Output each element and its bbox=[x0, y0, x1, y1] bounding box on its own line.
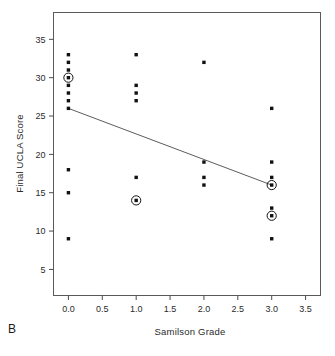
data-point bbox=[67, 84, 70, 87]
data-point bbox=[134, 53, 137, 56]
y-tick-label: 35 bbox=[35, 35, 45, 45]
data-point bbox=[134, 84, 137, 87]
data-point bbox=[270, 183, 273, 186]
data-point bbox=[202, 160, 205, 163]
data-point bbox=[67, 53, 70, 56]
figure-panel-b: 0.00.51.01.52.02.53.03.55101520253035 Fi… bbox=[0, 0, 335, 356]
scatter-plot: 0.00.51.01.52.02.53.03.55101520253035 bbox=[0, 0, 335, 356]
data-point bbox=[67, 168, 70, 171]
x-tick-label: 0.5 bbox=[96, 304, 109, 314]
y-axis-title: Final UCLA Score bbox=[14, 99, 25, 209]
data-point bbox=[67, 237, 70, 240]
axis-ticks bbox=[49, 39, 306, 300]
data-point bbox=[270, 237, 273, 240]
y-tick-label: 20 bbox=[35, 150, 45, 160]
x-tick-label: 3.5 bbox=[299, 304, 312, 314]
x-tick-label: 2.0 bbox=[198, 304, 211, 314]
data-point bbox=[270, 160, 273, 163]
y-tick-label: 5 bbox=[40, 265, 45, 275]
data-point bbox=[67, 99, 70, 102]
x-tick-label: 3.0 bbox=[265, 304, 278, 314]
data-point bbox=[134, 199, 137, 202]
regression-line bbox=[68, 108, 271, 185]
panel-letter-label: B bbox=[8, 322, 16, 336]
axis-tick-labels: 0.00.51.01.52.02.53.03.55101520253035 bbox=[35, 35, 311, 314]
data-point bbox=[202, 61, 205, 64]
plot-frame bbox=[54, 13, 321, 296]
data-point bbox=[270, 107, 273, 110]
data-point bbox=[67, 76, 70, 79]
data-point bbox=[67, 91, 70, 94]
y-tick-label: 25 bbox=[35, 111, 45, 121]
x-tick-label: 0.0 bbox=[62, 304, 75, 314]
x-axis-title: Samilson Grade bbox=[110, 326, 270, 337]
x-tick-label: 1.5 bbox=[164, 304, 177, 314]
data-point bbox=[134, 176, 137, 179]
data-point bbox=[67, 61, 70, 64]
data-point bbox=[270, 214, 273, 217]
y-tick-label: 10 bbox=[35, 226, 45, 236]
x-tick-label: 2.5 bbox=[232, 304, 245, 314]
x-tick-label: 1.0 bbox=[130, 304, 143, 314]
fit-line bbox=[68, 108, 271, 185]
data-point bbox=[270, 176, 273, 179]
data-point bbox=[134, 99, 137, 102]
data-point bbox=[202, 183, 205, 186]
plot-border bbox=[54, 13, 321, 296]
data-point bbox=[67, 68, 70, 71]
data-point bbox=[202, 176, 205, 179]
y-tick-label: 30 bbox=[35, 73, 45, 83]
data-point bbox=[270, 206, 273, 209]
data-point bbox=[67, 107, 70, 110]
y-tick-label: 15 bbox=[35, 188, 45, 198]
data-point bbox=[67, 191, 70, 194]
data-point bbox=[134, 91, 137, 94]
